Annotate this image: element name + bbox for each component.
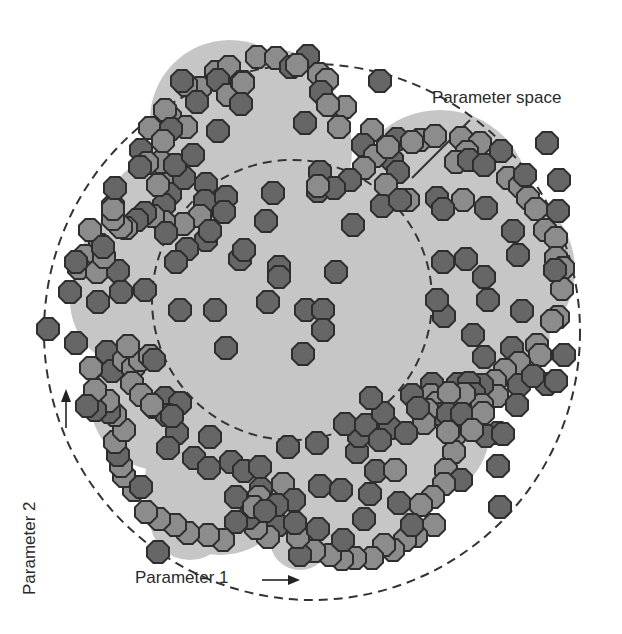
sample-point (359, 483, 381, 505)
sample-point (312, 299, 334, 321)
sample-point (407, 397, 429, 419)
sample-point (215, 337, 237, 359)
sample-point (332, 529, 354, 551)
sample-point (377, 136, 399, 158)
sample-point (262, 182, 284, 204)
sample-point (169, 299, 191, 321)
sample-point (76, 395, 98, 417)
sample-point (395, 422, 417, 444)
sample-point (328, 116, 350, 138)
sample-point (475, 197, 497, 219)
sample-point (102, 198, 124, 220)
sample-point (92, 236, 114, 258)
sample-point (307, 518, 329, 540)
sample-point (507, 244, 529, 266)
sample-point (182, 144, 204, 166)
sample-point (473, 154, 495, 176)
sample-point (197, 524, 219, 546)
sample-point (489, 496, 511, 518)
sample-point (317, 94, 339, 116)
sample-point (424, 125, 446, 147)
sample-point (432, 251, 454, 273)
sample-point (147, 174, 169, 196)
sample-point (65, 332, 87, 354)
sample-point (198, 457, 220, 479)
sample-point (277, 436, 299, 458)
sample-point (388, 492, 410, 514)
sample-point (452, 189, 474, 211)
parameter-1-arrow-icon (262, 575, 300, 585)
sample-point (330, 479, 352, 501)
sample-point (141, 394, 163, 416)
sample-point (87, 291, 109, 313)
sample-point (37, 318, 59, 340)
sample-point (511, 300, 533, 322)
sample-point (492, 423, 514, 445)
parameter-2-axis-label: Parameter 2 (20, 501, 40, 595)
sample-point (135, 501, 157, 523)
sample-point (230, 93, 252, 115)
sample-point (207, 120, 229, 142)
sample-point (110, 281, 132, 303)
sample-point (547, 200, 569, 222)
sample-point (389, 189, 411, 211)
sample-point (233, 239, 255, 261)
sample-point (171, 70, 193, 92)
sample-point (401, 131, 423, 153)
sample-point (213, 201, 235, 223)
sample-point (255, 210, 277, 232)
sample-point (514, 164, 536, 186)
sample-point (545, 227, 567, 249)
sample-point (473, 346, 495, 368)
sample-point (529, 344, 551, 366)
sample-point (155, 222, 177, 244)
sample-point (130, 476, 152, 498)
sample-point (455, 248, 477, 270)
sample-point (284, 512, 306, 534)
sample-point (325, 261, 347, 283)
sample-point (306, 432, 328, 454)
sample-point (369, 429, 391, 451)
parameter-2-arrow-icon (61, 389, 71, 428)
sample-point (342, 214, 364, 236)
sample-point (161, 405, 183, 427)
sample-point (129, 156, 151, 178)
sample-point (553, 344, 575, 366)
sample-point (384, 459, 406, 481)
sample-point (80, 357, 102, 379)
sample-point (232, 72, 254, 94)
sample-point (487, 455, 509, 477)
sample-point (536, 132, 558, 154)
sample-point (294, 112, 316, 134)
sample-point (438, 382, 460, 404)
sample-point (147, 541, 169, 563)
sample-point (286, 54, 308, 76)
sample-point (186, 91, 208, 113)
sample-point (292, 343, 314, 365)
sample-point (477, 289, 499, 311)
sample-point (522, 365, 544, 387)
sample-point (502, 220, 524, 242)
sample-point (462, 324, 484, 346)
sample-point (410, 494, 432, 516)
sample-point (204, 299, 226, 321)
sample-point (59, 281, 81, 303)
sample-point (401, 514, 423, 536)
sample-point (461, 419, 483, 441)
sample-point (334, 413, 356, 435)
sample-point (249, 456, 271, 478)
sample-point (506, 394, 528, 416)
sample-point (143, 349, 165, 371)
sample-point (268, 266, 290, 288)
sample-point (152, 130, 174, 152)
sample-point (199, 426, 221, 448)
sample-point (199, 220, 221, 242)
sample-point (541, 310, 563, 332)
sample-point (134, 279, 156, 301)
sample-point (165, 251, 187, 273)
sample-point (525, 198, 547, 220)
sample-point (254, 500, 276, 522)
sample-point (360, 387, 382, 409)
sample-point (544, 259, 566, 281)
sample-point (473, 266, 495, 288)
